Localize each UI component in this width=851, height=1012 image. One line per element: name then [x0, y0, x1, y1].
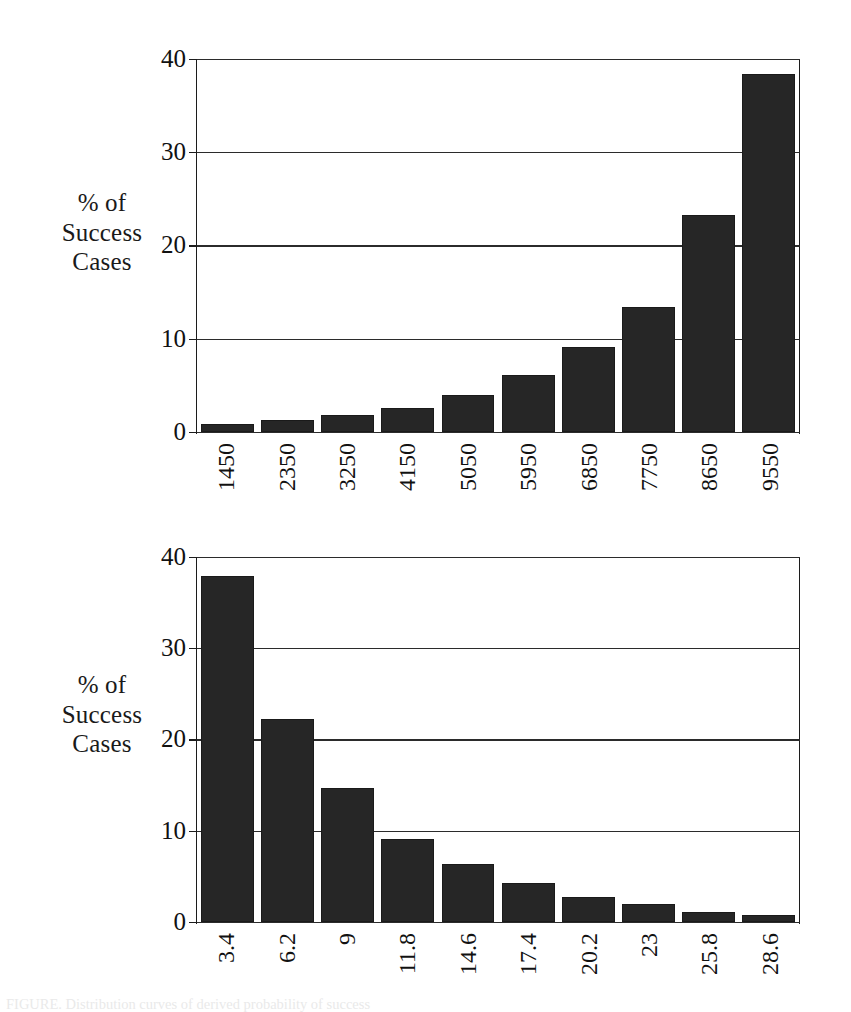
bar[interactable]	[442, 395, 495, 431]
bar[interactable]	[682, 912, 735, 922]
x-tick-label: 4150	[395, 443, 419, 491]
bar[interactable]	[201, 576, 254, 921]
y-tick-mark-30	[189, 648, 197, 649]
x-tick-label: 23	[637, 933, 661, 957]
y-axis-title-bottom: % of Success Cases	[28, 670, 176, 759]
bar[interactable]	[562, 897, 615, 922]
x-tick-label: 8650	[697, 443, 721, 491]
x-tick-label: 5950	[516, 443, 540, 491]
bar-slot	[739, 558, 799, 922]
x-axis-tick-labels-bottom: 3.46.2911.814.617.420.22325.828.6	[196, 927, 800, 1001]
bar-series-bottom	[197, 558, 798, 922]
chart-figure-top: % of Success Cases 010203040 14502350325…	[0, 0, 851, 500]
y-tick-label-30: 30	[161, 139, 186, 164]
y-tick-mark-0	[189, 432, 197, 433]
y-tick-label-0: 0	[174, 909, 187, 934]
gridline-0: 0	[196, 432, 800, 433]
x-tick-slot: 3.4	[196, 927, 256, 1001]
bar[interactable]	[502, 883, 555, 921]
y-tick-mark-10	[189, 831, 197, 832]
y-tick-label-40: 40	[161, 46, 186, 71]
x-tick-label: 9550	[758, 443, 782, 491]
bar-slot	[618, 60, 678, 432]
y-tick-mark-30	[189, 152, 197, 153]
chart-figure-bottom: % of Success Cases 010203040 3.46.2911.8…	[0, 500, 851, 1006]
y-tick-label-20: 20	[161, 726, 186, 751]
plot-right-edge-bottom	[799, 557, 800, 924]
bar[interactable]	[321, 415, 374, 432]
bar[interactable]	[562, 347, 615, 432]
x-tick-label: 28.6	[758, 933, 782, 975]
bar[interactable]	[442, 864, 495, 921]
bar-slot	[258, 60, 318, 432]
y-axis-title-line-3: Cases	[28, 729, 176, 759]
x-tick-slot: 25.8	[679, 927, 739, 1001]
x-tick-label: 25.8	[697, 933, 721, 975]
bar-slot	[318, 558, 378, 922]
bar-series-top	[197, 60, 798, 432]
y-tick-mark-10	[189, 339, 197, 340]
x-tick-slot: 20.2	[558, 927, 618, 1001]
bar-slot	[558, 558, 618, 922]
bar[interactable]	[321, 788, 374, 922]
gridline-0: 0	[196, 922, 800, 923]
figure-caption-cropped: FIGURE. Distribution curves of derived p…	[6, 996, 626, 1012]
plot-right-edge-top	[799, 59, 800, 434]
x-tick-label: 3.4	[214, 933, 238, 963]
x-tick-label: 7750	[637, 443, 661, 491]
bar-slot	[498, 60, 558, 432]
x-tick-label: 6.2	[275, 933, 299, 963]
bar-slot	[197, 558, 257, 922]
y-axis-title-line-2: Success	[28, 218, 176, 248]
bar-slot	[197, 60, 257, 432]
bar-slot	[678, 60, 738, 432]
x-tick-slot: 9	[317, 927, 377, 1001]
bar[interactable]	[261, 420, 314, 432]
y-axis-title-line-3: Cases	[28, 247, 176, 277]
x-tick-label: 3250	[335, 443, 359, 491]
plot-area-bottom: 010203040	[196, 558, 800, 923]
x-tick-label: 14.6	[456, 933, 480, 975]
bar[interactable]	[261, 719, 314, 922]
x-tick-label: 20.2	[577, 933, 601, 975]
bar[interactable]	[682, 215, 735, 431]
bar[interactable]	[381, 408, 434, 431]
y-tick-mark-20	[189, 739, 197, 740]
y-tick-mark-0	[189, 922, 197, 923]
y-axis-title-top: % of Success Cases	[28, 188, 176, 277]
x-tick-slot: 14.6	[438, 927, 498, 1001]
x-tick-label: 2350	[275, 443, 299, 491]
y-axis-title-line-1: % of	[28, 188, 176, 218]
x-tick-label: 11.8	[395, 933, 419, 974]
bar[interactable]	[201, 424, 254, 431]
bar[interactable]	[502, 375, 555, 432]
x-tick-label: 17.4	[516, 933, 540, 975]
bar-slot	[318, 60, 378, 432]
bar[interactable]	[381, 839, 434, 922]
bar[interactable]	[622, 904, 675, 921]
bar-slot	[739, 60, 799, 432]
x-tick-label: 9	[335, 933, 359, 945]
bar-slot	[558, 60, 618, 432]
bar-slot	[378, 60, 438, 432]
y-tick-label-0: 0	[174, 419, 187, 444]
bar-slot	[378, 558, 438, 922]
y-tick-label-10: 10	[161, 326, 186, 351]
x-tick-slot: 23	[619, 927, 679, 1001]
plot-area-top: 010203040	[196, 60, 800, 433]
bar[interactable]	[742, 915, 795, 921]
y-tick-label-20: 20	[161, 232, 186, 257]
x-tick-label: 1450	[214, 443, 238, 491]
bar[interactable]	[742, 74, 795, 432]
bar[interactable]	[622, 307, 675, 431]
bar-slot	[258, 558, 318, 922]
bar-slot	[438, 558, 498, 922]
y-axis-title-line-1: % of	[28, 670, 176, 700]
x-tick-slot: 11.8	[377, 927, 437, 1001]
bar-slot	[498, 558, 558, 922]
y-axis-title-line-2: Success	[28, 700, 176, 730]
x-tick-slot: 28.6	[740, 927, 800, 1001]
y-tick-label-30: 30	[161, 635, 186, 660]
y-tick-mark-20	[189, 245, 197, 246]
y-tick-label-40: 40	[161, 544, 186, 569]
